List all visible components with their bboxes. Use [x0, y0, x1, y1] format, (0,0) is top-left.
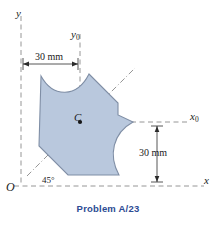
- problem-caption: Problem A/23: [0, 203, 216, 214]
- centroid-label: C: [74, 112, 81, 123]
- figure-drawing: [0, 0, 216, 226]
- figure-container: y y0 x0 x O C 30 mm 30 mm 45° Problem A/…: [0, 0, 216, 226]
- dim-top-arrow-left: [23, 62, 29, 67]
- angle-label-45: 45°: [42, 176, 55, 185]
- axis-label-y: y: [16, 8, 21, 19]
- dim-top-arrow-right: [72, 62, 78, 67]
- axis-label-x: x: [204, 175, 209, 186]
- axis-label-y0-subscript: 0: [76, 33, 80, 42]
- origin-label: O: [6, 181, 15, 193]
- shaded-region: [39, 74, 133, 175]
- dimension-label-top-width: 30 mm: [35, 52, 63, 62]
- dim-right-arrow-bottom: [155, 176, 160, 182]
- axis-label-x0: x0: [190, 111, 199, 123]
- axis-label-y0: y0: [71, 29, 80, 41]
- dimension-label-right-height: 30 mm: [139, 148, 167, 158]
- dim-right-arrow-top: [155, 126, 160, 132]
- axis-label-x0-subscript: 0: [195, 115, 199, 124]
